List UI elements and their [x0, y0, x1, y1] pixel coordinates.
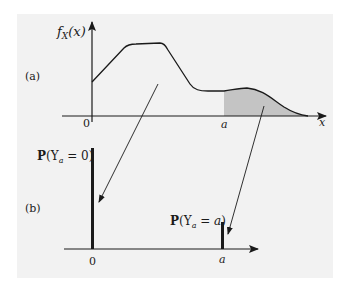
bar-zero-label: P(Ya = 0) — [37, 149, 93, 165]
tick-a-b: a — [219, 253, 226, 266]
panel-b-label: (b) — [25, 202, 41, 215]
panel-a-label: (a) — [25, 70, 40, 83]
bar-a-label: P(Ya = a) — [170, 214, 226, 230]
panel-background — [17, 14, 333, 278]
mass-bar-zero — [91, 148, 94, 249]
tick-a-a: a — [221, 118, 228, 131]
tick-zero-a: 0 — [83, 117, 90, 130]
tick-zero-b: 0 — [89, 255, 96, 268]
diagram-figure: fX(x) (a) x 0 a P(Ya = 0) (b) P(Ya = a) … — [0, 0, 351, 288]
x-axis-label: x — [319, 116, 326, 129]
y-axis-label: fX(x) — [56, 24, 86, 41]
